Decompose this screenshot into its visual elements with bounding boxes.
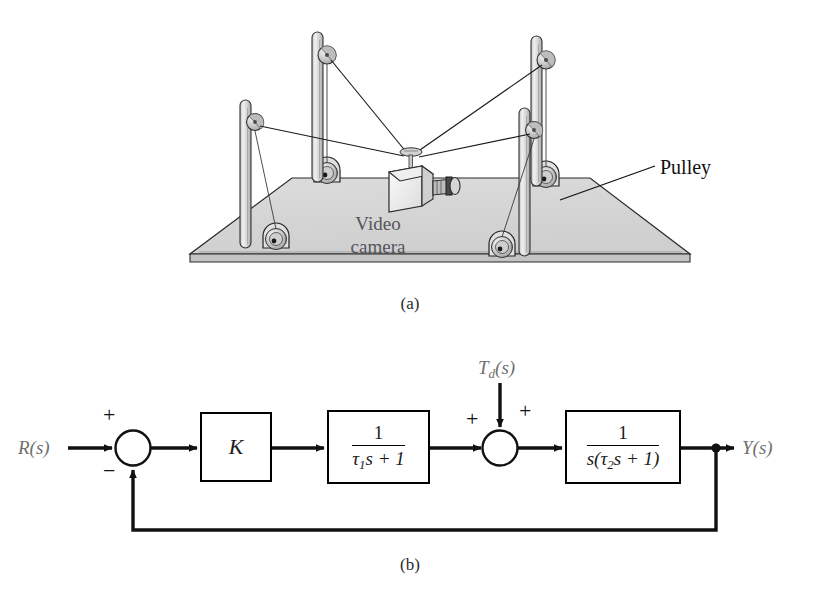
input-signal-text: R(s) — [18, 437, 50, 458]
plant-numerator: 1 — [587, 423, 660, 444]
integrator-lag-fraction: 1 s(τ2s + 1) — [585, 423, 662, 472]
gain-block-text: K — [229, 434, 244, 460]
gain-block: K — [200, 412, 272, 482]
plant-denominator-rest: s + 1) — [614, 448, 660, 469]
panel-b-block-diagram — [0, 0, 821, 598]
output-takeoff-node — [711, 443, 720, 452]
summer1-minus-sign: − — [103, 460, 115, 482]
disturbance-arg: (s) — [495, 357, 515, 378]
summer2-left-plus-sign: + — [466, 408, 478, 430]
output-signal-text: Y(s) — [742, 437, 773, 458]
input-signal-label: R(s) — [18, 437, 50, 459]
summing-junction-2 — [483, 431, 518, 466]
plant-fraction-bar — [587, 445, 660, 447]
lag-denominator: τ1s + 1 — [352, 448, 405, 471]
disturbance-signal-label: Td(s) — [478, 357, 515, 382]
lag-numerator: 1 — [352, 423, 405, 444]
disturbance-base: T — [478, 357, 489, 378]
integrator-lag-block: 1 s(τ2s + 1) — [565, 410, 681, 484]
first-order-lag-block: 1 τ1s + 1 — [327, 410, 430, 484]
panel-b-caption: (b) — [380, 555, 440, 575]
summing-junction-1 — [116, 431, 151, 466]
figure-root: Video camera Pulley (a) — [0, 0, 821, 598]
output-signal-label: Y(s) — [742, 437, 773, 459]
plant-denominator: s(τ2s + 1) — [587, 448, 660, 471]
plant-denominator-lead: s( — [587, 448, 601, 469]
lag-fraction-bar — [352, 445, 405, 447]
summer1-plus-sign: + — [103, 404, 115, 426]
lag-denominator-rest: s + 1 — [366, 448, 405, 469]
summer2-top-plus-sign: + — [519, 400, 531, 422]
first-order-lag-fraction: 1 τ1s + 1 — [350, 423, 407, 472]
